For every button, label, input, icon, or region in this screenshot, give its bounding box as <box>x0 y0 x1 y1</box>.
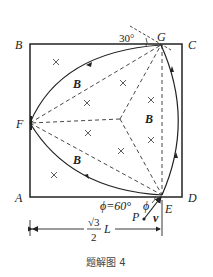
label-D: D <box>187 191 197 205</box>
label-F: F <box>15 117 24 131</box>
figure-caption: 题解图 4 <box>86 256 126 268</box>
physics-diagram: B B B B C A D G F E P 30° ϕ=60° ϕ v √3 2… <box>0 0 213 277</box>
dimension-denominator: 2 <box>91 231 97 243</box>
label-B: B <box>15 38 23 52</box>
field-label-top: B <box>72 77 81 91</box>
label-C: C <box>188 38 197 52</box>
field-cross-marks <box>51 59 154 178</box>
direction-arrows <box>84 62 178 179</box>
label-G: G <box>157 30 166 44</box>
angle-30-label: 30° <box>119 32 134 44</box>
label-A: A <box>14 191 23 205</box>
angle-phi-eq-label: ϕ=60° <box>100 199 131 213</box>
dimension-unit: L <box>103 222 111 236</box>
field-label-bottom: B <box>72 153 81 167</box>
angle-arc <box>146 38 147 46</box>
dimension-numerator: √3 <box>88 216 100 228</box>
angle-phi-label: ϕ <box>143 199 149 213</box>
dashed-radii <box>30 45 162 195</box>
label-E: E <box>164 202 173 216</box>
field-label-right: B <box>144 112 153 126</box>
label-P: P <box>131 210 140 224</box>
velocity-label: v <box>153 211 159 225</box>
